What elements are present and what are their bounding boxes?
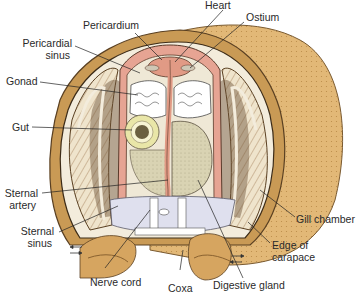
label-digestive-gland: Digestive gland bbox=[213, 280, 285, 291]
label-pericardial-sinus-line1: Pericardial bbox=[12, 38, 72, 49]
label-pericardium: Pericardium bbox=[83, 20, 139, 31]
label-nerve-cord: Nerve cord bbox=[90, 277, 141, 288]
label-edge-of-carapace-line1: Edge of bbox=[272, 240, 308, 251]
label-gonad: Gonad bbox=[6, 76, 38, 87]
label-ostium: Ostium bbox=[246, 12, 279, 23]
label-gut: Gut bbox=[12, 122, 29, 133]
crayfish-cross-section-diagram: Heart Ostium Pericardium Pericardial sin… bbox=[0, 0, 360, 296]
coxa-left bbox=[80, 236, 136, 278]
label-sternal-sinus-line1: Sternal bbox=[12, 226, 54, 237]
label-sternal-artery-line2: artery bbox=[0, 200, 36, 211]
nerve-cord bbox=[159, 209, 169, 215]
label-coxa: Coxa bbox=[168, 283, 193, 294]
label-edge-of-carapace-line2: carapace bbox=[272, 252, 315, 263]
label-pericardial-sinus-line2: sinus bbox=[12, 50, 70, 61]
label-heart: Heart bbox=[205, 0, 231, 11]
sternal-sinus bbox=[110, 196, 235, 232]
gut bbox=[125, 115, 159, 149]
label-sternal-sinus-line2: sinus bbox=[12, 238, 52, 249]
label-sternal-artery-line1: Sternal bbox=[0, 188, 38, 199]
label-gill-chamber: Gill chamber bbox=[296, 214, 355, 225]
